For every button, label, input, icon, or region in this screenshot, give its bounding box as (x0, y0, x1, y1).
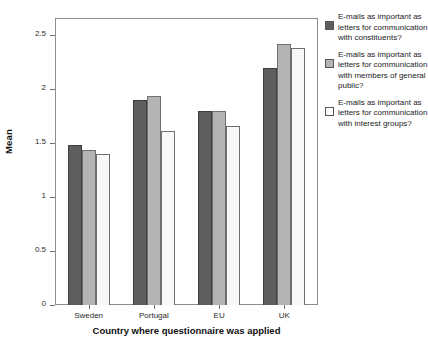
bar[interactable] (147, 96, 161, 305)
legend-label: E-mails as important as letters for comm… (338, 98, 428, 130)
bar[interactable] (161, 131, 175, 305)
x-axis-tick-label: EU (184, 311, 254, 320)
bar[interactable] (226, 126, 240, 305)
legend-label: E-mails as important as letters for comm… (338, 50, 428, 92)
bar-group (133, 19, 175, 305)
y-axis-tick-label: 0 (42, 299, 46, 308)
bar[interactable] (277, 44, 291, 305)
y-axis-tick-label: 2.5 (35, 29, 46, 38)
bar[interactable] (212, 111, 226, 305)
bar[interactable] (133, 100, 147, 305)
x-axis-title: Country where questionnaire was applied (55, 325, 318, 336)
bar-group (68, 19, 110, 305)
y-axis-tick: 1 (0, 197, 55, 198)
y-axis-tick: 1.5 (0, 143, 55, 144)
plot-area (56, 19, 317, 305)
bar[interactable] (96, 154, 110, 305)
y-axis-tick-mark (50, 251, 55, 252)
legend-swatch-icon (325, 107, 334, 116)
y-axis-tick-label: 1 (42, 191, 46, 200)
x-axis-tick-mark (89, 305, 90, 309)
x-axis-tick-mark (154, 305, 155, 309)
legend-label: E-mails as important as letters for comm… (338, 12, 428, 44)
y-axis-title: Mean (3, 112, 14, 172)
y-axis-tick-label: 1.5 (35, 137, 46, 146)
legend-entry[interactable]: E-mails as important as letters for comm… (325, 50, 428, 92)
y-axis-tick-mark (50, 89, 55, 90)
y-axis-tick-mark (50, 143, 55, 144)
legend-swatch-icon (325, 21, 334, 30)
bar[interactable] (198, 111, 212, 305)
y-axis-tick: 0 (0, 305, 55, 306)
bar-chart-figure: Mean 00.511.522.5 SwedenPortugalEUUK Cou… (0, 0, 428, 338)
y-axis-tick-label: 0.5 (35, 245, 46, 254)
bar-group (263, 19, 305, 305)
x-axis-tick-label: UK (249, 311, 319, 320)
chart-legend: E-mails as important as letters for comm… (325, 12, 428, 135)
bar[interactable] (263, 68, 277, 305)
legend-entry[interactable]: E-mails as important as letters for comm… (325, 12, 428, 44)
y-axis-tick: 0.5 (0, 251, 55, 252)
y-axis-tick-mark (50, 197, 55, 198)
x-axis-tick-label: Portugal (119, 311, 189, 320)
bar[interactable] (291, 48, 305, 305)
bar[interactable] (82, 150, 96, 305)
legend-swatch-icon (325, 59, 334, 68)
y-axis-tick: 2.5 (0, 35, 55, 36)
bar-group (198, 19, 240, 305)
legend-entry[interactable]: E-mails as important as letters for comm… (325, 98, 428, 130)
x-axis-tick-mark (219, 305, 220, 309)
x-axis-tick-label: Sweden (54, 311, 124, 320)
y-axis-tick: 2 (0, 89, 55, 90)
y-axis-tick-label: 2 (42, 83, 46, 92)
bar[interactable] (68, 145, 82, 305)
x-axis-tick-mark (284, 305, 285, 309)
y-axis-tick-mark (50, 305, 55, 306)
y-axis-tick-mark (50, 35, 55, 36)
